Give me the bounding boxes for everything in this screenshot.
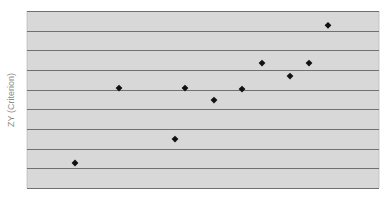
scatter-chart: ZY (Criterion): [0, 0, 387, 199]
plot-background: [27, 11, 379, 188]
plot-area: [0, 0, 387, 199]
